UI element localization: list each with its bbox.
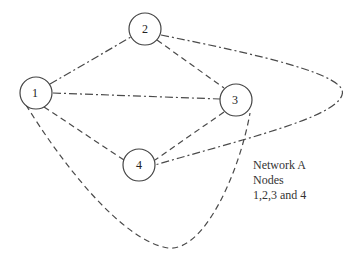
- edge-1-4: [44, 107, 124, 160]
- node-1-label: 1: [32, 86, 38, 100]
- diagram-caption: Network A Nodes 1,2,3 and 4: [253, 158, 306, 203]
- node-1: 1: [20, 77, 52, 109]
- network-diagram: 1 2 3 4: [0, 0, 361, 263]
- edge-1-3: [53, 93, 220, 99]
- node-3-label: 3: [232, 93, 238, 107]
- node-2-label: 2: [142, 22, 148, 36]
- edge-3-4: [155, 112, 224, 160]
- node-2: 2: [129, 13, 161, 45]
- caption-nodes-list: 1,2,3 and 4: [253, 188, 306, 203]
- caption-nodes-label: Nodes: [253, 173, 306, 188]
- edge-2-3: [157, 40, 224, 88]
- edge-1-2: [50, 37, 131, 84]
- node-3: 3: [220, 84, 252, 116]
- caption-title: Network A: [253, 158, 306, 173]
- node-4: 4: [123, 149, 155, 181]
- node-4-label: 4: [136, 158, 142, 172]
